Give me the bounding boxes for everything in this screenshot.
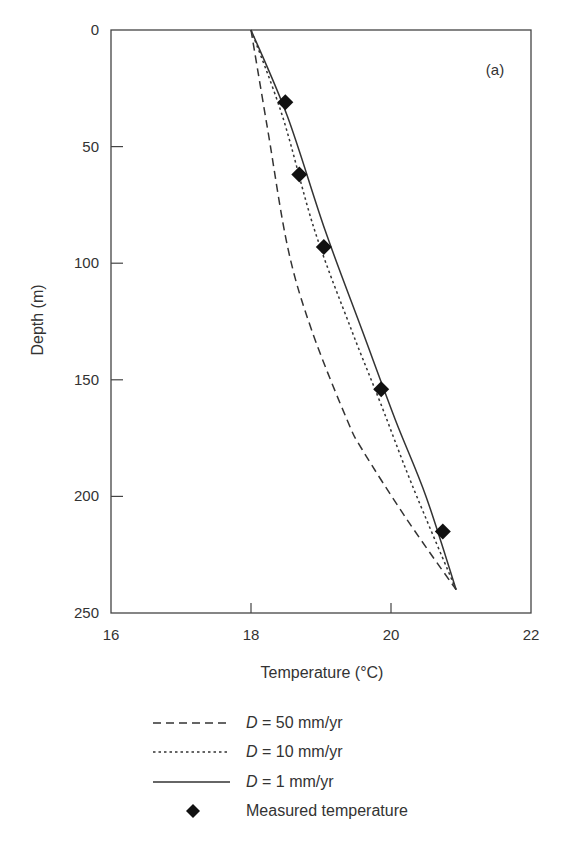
- measured-point: [435, 523, 451, 539]
- legend-item-d1: D = 1 mm/yr: [150, 767, 480, 797]
- x-tick-label: 22: [523, 626, 540, 643]
- y-axis-label: Depth (m): [29, 284, 46, 355]
- dotted-line-swatch-icon: [150, 745, 230, 759]
- y-tick-label: 250: [74, 604, 99, 621]
- legend-label: Measured temperature: [246, 802, 408, 820]
- legend-item-measured: Measured temperature: [150, 797, 480, 827]
- legend-label: D = 50 mm/yr: [246, 714, 342, 732]
- y-tick-label: 50: [82, 138, 99, 155]
- solid-line-swatch-icon: [150, 775, 230, 789]
- plot-frame: [111, 30, 531, 613]
- panel-label: (a): [486, 61, 504, 78]
- legend: D = 50 mm/yr D = 10 mm/yr D = 1 mm/yr Me…: [150, 708, 480, 826]
- x-tick-label: 18: [243, 626, 260, 643]
- series-layer: [251, 30, 456, 590]
- diamond-marker-icon: [150, 804, 230, 818]
- y-tick-label: 200: [74, 487, 99, 504]
- y-tick-label: 0: [91, 21, 99, 38]
- legend-label: D = 10 mm/yr: [246, 743, 342, 761]
- legend-item-d10: D = 10 mm/yr: [150, 738, 480, 768]
- plot-border: [111, 30, 531, 613]
- measured-point: [373, 381, 389, 397]
- x-axis-label: Temperature (°C): [261, 664, 384, 681]
- series-line-dotted: [251, 30, 456, 590]
- x-axis: 16182022: [103, 603, 540, 643]
- legend-item-d50: D = 50 mm/yr: [150, 708, 480, 738]
- y-axis: 050100150200250: [74, 21, 123, 621]
- y-tick-label: 150: [74, 371, 99, 388]
- dashed-line-swatch-icon: [150, 716, 230, 730]
- x-tick-label: 20: [383, 626, 400, 643]
- y-tick-label: 100: [74, 254, 99, 271]
- legend-label: D = 1 mm/yr: [246, 773, 334, 791]
- x-tick-label: 16: [103, 626, 120, 643]
- depth-temperature-chart: 16182022 050100150200250 (a) Temperature…: [0, 0, 576, 700]
